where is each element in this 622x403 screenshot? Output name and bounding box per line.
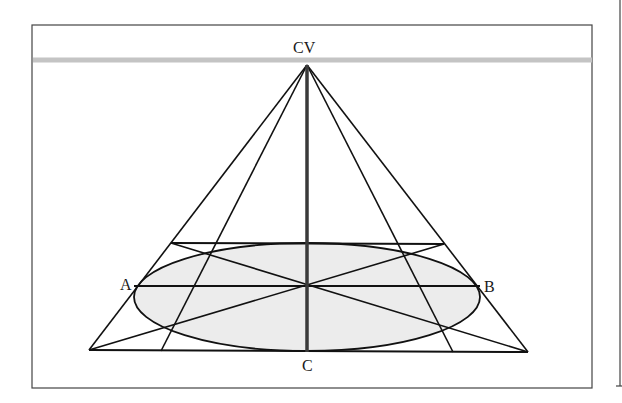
label-b: B [484,279,495,295]
label-a: A [120,277,132,293]
horizon-line [33,58,592,63]
perspective-diagram [0,0,622,403]
label-c: C [302,358,313,374]
diagram-canvas: CV A B C [0,0,622,403]
label-cv: CV [293,40,315,56]
